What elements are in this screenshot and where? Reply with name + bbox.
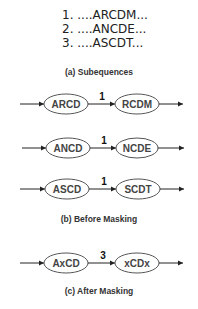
node-from-label: ASCD (53, 184, 81, 195)
graph-row-masked: AxCD 3 xCDx (20, 250, 183, 273)
edge-weight: 1 (101, 135, 107, 146)
caption-c: (c) After Masking (0, 286, 198, 296)
node-from-label: ARCD (52, 99, 81, 110)
node-to-label: RCDM (122, 99, 152, 110)
caption-b: (b) Before Masking (0, 214, 198, 224)
graph-diagram: ARCD 1 RCDM ANCD 1 NCDE ASCD 1 SCDT AxCD… (0, 0, 198, 309)
node-from-label: ANCD (54, 143, 83, 154)
node-to-label: xCDx (124, 258, 150, 269)
node-to-label: NCDE (123, 143, 152, 154)
edge-weight: 1 (99, 91, 105, 102)
edge-weight: 3 (100, 250, 106, 261)
graph-row-3: ASCD 1 SCDT (20, 176, 184, 199)
node-to-label: SCDT (124, 184, 151, 195)
edge-weight: 1 (101, 176, 107, 187)
node-from-label: AxCD (52, 258, 79, 269)
graph-row-2: ANCD 1 NCDE (22, 135, 184, 158)
graph-row-1: ARCD 1 RCDM (20, 91, 183, 114)
